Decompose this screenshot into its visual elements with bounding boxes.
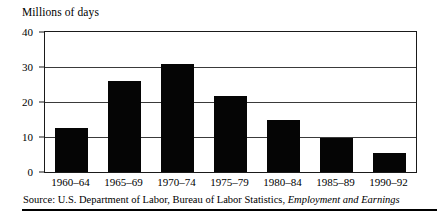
gridline-30	[45, 67, 416, 68]
source-note-publication: Employment and Earnings	[288, 194, 400, 205]
y-axis: 010203040	[0, 31, 40, 173]
bottom-rule-divider	[22, 209, 437, 211]
y-tick-label-20: 20	[22, 97, 33, 108]
y-tick-label-30: 30	[22, 62, 33, 73]
source-note: Source: U.S. Department of Labor, Bureau…	[23, 193, 400, 206]
bar	[55, 128, 88, 172]
chart-title: Millions of days	[22, 5, 99, 19]
x-tick-label: 1985–89	[309, 176, 362, 189]
bar	[161, 64, 194, 173]
x-axis: 1960–641965–691970–741975–791980–841985–…	[44, 176, 417, 192]
x-tick-label: 1975–79	[203, 176, 256, 189]
plot-area	[45, 32, 416, 172]
x-tick-label: 1965–69	[97, 176, 150, 189]
bar	[108, 81, 141, 172]
x-tick-label: 1960–64	[44, 176, 97, 189]
x-tick-label: 1980–84	[256, 176, 309, 189]
plot-frame	[44, 31, 417, 173]
y-tick-label-10: 10	[22, 132, 33, 143]
bar-chart-figure: Millions of days 010203040 1960–641965–6…	[0, 0, 447, 223]
x-tick-label: 1990–92	[362, 176, 415, 189]
y-tick-label-0: 0	[28, 167, 34, 178]
x-tick-label: 1970–74	[150, 176, 203, 189]
source-note-prefix: Source: U.S. Department of Labor, Bureau…	[23, 194, 288, 205]
bar	[320, 138, 353, 172]
bar	[373, 153, 406, 172]
y-tick-label-40: 40	[22, 27, 33, 38]
bar	[214, 96, 247, 172]
bar	[267, 120, 300, 173]
